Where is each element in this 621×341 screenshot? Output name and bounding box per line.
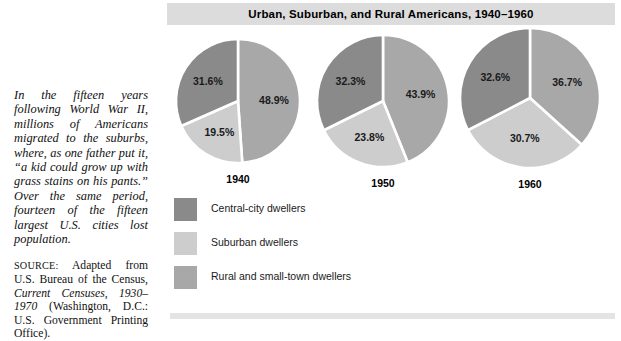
- pie-year-label: 1960: [518, 178, 542, 188]
- source-label: SOURCE:: [14, 260, 58, 271]
- bottom-band: [170, 313, 615, 319]
- legend-swatch-icon: [174, 232, 197, 255]
- source-note: SOURCE: Adapted from U.S. Bureau of the …: [14, 259, 148, 341]
- pie-chart-group: 48.9%19.5%31.6%194043.9%23.8%32.3%195036…: [160, 28, 615, 188]
- slice-percent-label: 36.7%: [552, 76, 582, 88]
- caption-column: In the fifteen years following World War…: [14, 88, 148, 341]
- legend-swatch-icon: [174, 198, 197, 221]
- slice-percent-label: 32.6%: [480, 71, 510, 83]
- legend-label: Rural and small-town dwellers: [211, 270, 351, 282]
- pie-1960: 36.7%30.7%32.6%1960: [160, 28, 615, 188]
- legend-swatch-icon: [174, 266, 197, 289]
- slice-percent-label: 30.7%: [510, 132, 540, 144]
- legend-label: Suburban dwellers: [211, 236, 298, 248]
- page-title: Urban, Suburban, and Rural Americans, 19…: [167, 5, 615, 23]
- legend-label: Central-city dwellers: [211, 202, 306, 214]
- caption-text: In the fifteen years following World War…: [14, 88, 148, 246]
